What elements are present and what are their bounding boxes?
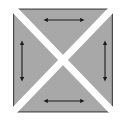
geometric-diagram <box>0 0 126 123</box>
diagram-root <box>0 0 126 123</box>
